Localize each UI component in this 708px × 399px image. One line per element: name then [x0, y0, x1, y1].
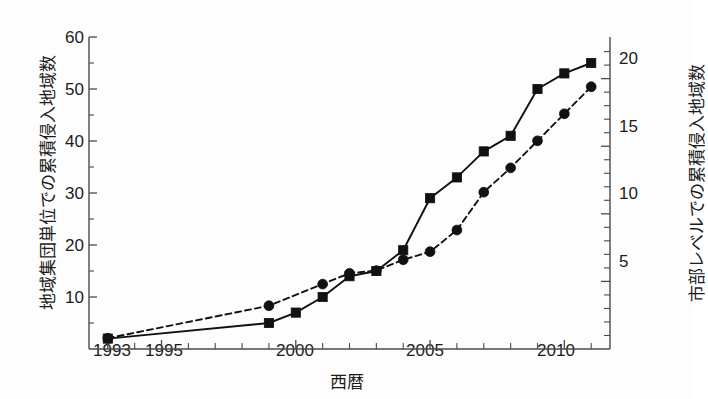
data-point-marker — [586, 82, 596, 92]
axis-spines — [89, 37, 610, 349]
data-point-marker — [371, 266, 381, 276]
data-point-marker — [345, 268, 355, 278]
data-point-marker — [560, 69, 569, 78]
data-point-marker — [425, 194, 434, 203]
data-point-marker — [587, 58, 596, 67]
data-point-marker — [479, 187, 489, 197]
data-point-marker — [291, 308, 300, 317]
data-point-marker — [318, 279, 328, 289]
y-axis-left-ticks — [89, 37, 97, 323]
data-point-marker — [452, 225, 462, 235]
data-point-marker — [264, 318, 273, 327]
data-point-marker — [533, 136, 543, 146]
data-point-marker — [452, 173, 461, 182]
data-point-marker — [399, 246, 408, 255]
y-axis-right-ticks — [601, 52, 610, 336]
data-point-marker — [318, 292, 327, 301]
data-point-marker — [479, 147, 488, 156]
data-point-marker — [398, 255, 408, 265]
x-axis-ticks — [108, 340, 591, 349]
data-point-marker — [506, 163, 516, 173]
data-point-marker — [506, 131, 515, 140]
data-point-marker — [103, 333, 113, 343]
series-line-0 — [108, 63, 591, 339]
data-point-marker — [559, 109, 569, 119]
data-point-marker — [425, 247, 435, 257]
data-point-marker — [264, 301, 274, 311]
data-series-layer — [103, 58, 596, 343]
data-point-marker — [533, 84, 542, 93]
series-line-1 — [108, 87, 591, 338]
